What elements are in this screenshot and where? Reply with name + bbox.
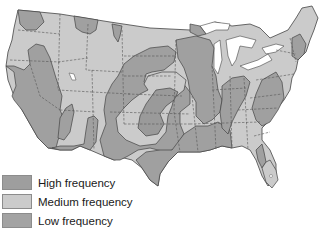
low-frequency-swatch xyxy=(2,213,32,228)
legend-label-low: Low frequency xyxy=(38,215,113,227)
map-legend: High frequency Medium frequency Low freq… xyxy=(2,174,162,231)
legend-item-high: High frequency xyxy=(2,174,162,191)
legend-label-high: High frequency xyxy=(38,177,115,189)
lake-okeechobee xyxy=(270,175,273,178)
high-frequency-swatch xyxy=(2,175,32,190)
legend-label-medium: Medium frequency xyxy=(38,196,133,208)
legend-item-medium: Medium frequency xyxy=(2,193,162,210)
legend-item-low: Low frequency xyxy=(2,212,162,229)
medium-frequency-swatch xyxy=(2,194,32,209)
